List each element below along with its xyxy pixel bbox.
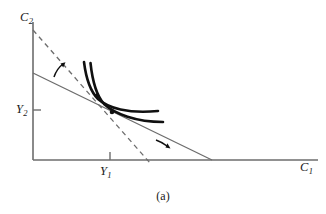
budget-line-flat-solid [33,73,212,160]
rotation-arrow-lower-right-head [166,143,171,148]
figure-panel-a: C2 C1 Y2 Y1 (a) [0,0,326,214]
y-tick-label-sub: 2 [23,108,27,118]
y-axis-label-sub: 2 [29,16,33,26]
y-tick-label-text: Y [16,102,23,116]
rotation-arrow-upper-left [54,64,63,77]
indifference-curve-lower [91,63,164,122]
x-axis-label-sub: 1 [309,166,313,176]
budget-line-steep-dashed [33,30,150,163]
x-axis-label: C1 [300,161,313,174]
rotation-arrow-lower-right [156,140,167,146]
x-axis-tick-label-y1: Y1 [100,165,111,178]
diagram-canvas [0,0,326,214]
x-axis-label-text: C [300,160,308,174]
endowment-point-marker [110,110,115,115]
x-tick-label-sub: 1 [107,170,111,180]
x-tick-label-text: Y [100,164,107,178]
figure-caption: (a) [0,189,326,204]
y-axis-label: C2 [20,11,33,24]
tangency-point-upper [95,93,99,97]
y-axis-tick-label-y2: Y2 [16,103,27,116]
y-axis-label-text: C [20,10,28,24]
